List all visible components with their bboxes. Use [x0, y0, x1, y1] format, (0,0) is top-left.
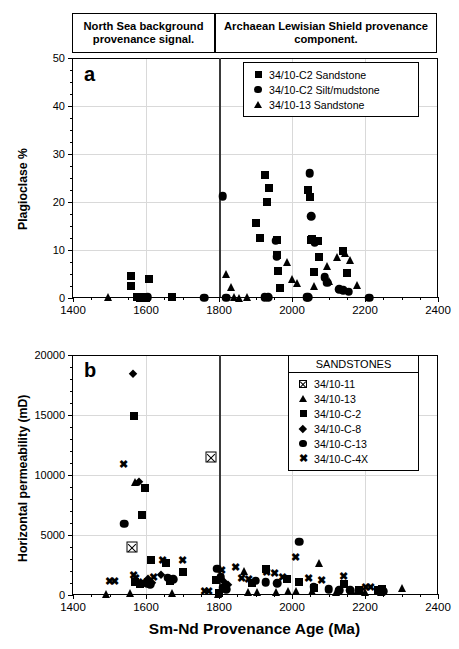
data-point-x: ✖: [217, 565, 226, 576]
data-point-circle: [222, 585, 231, 594]
data-point-circle: [261, 578, 270, 587]
data-point-x: ✖: [278, 572, 287, 583]
circle-marker-icon: [295, 440, 311, 448]
x-tick-label: 1600: [133, 601, 159, 613]
y-tick-minor: [70, 403, 73, 404]
data-point-square: [138, 511, 146, 519]
diamond-marker-icon: [295, 426, 311, 432]
y-tick-minor: [70, 451, 73, 452]
data-point-triangle: [253, 588, 261, 596]
data-point-circle: [324, 585, 333, 594]
y-tick-minor: [70, 511, 73, 512]
data-point-x: ✖: [339, 571, 348, 582]
data-point-x: ✖: [149, 572, 158, 583]
data-point-circle: [295, 537, 304, 546]
box-x-marker-icon: [295, 380, 311, 388]
y-tick-minor: [70, 547, 73, 548]
panel-b: Horizontal permeability (mD) 05000100001…: [0, 0, 459, 649]
x-tick: [73, 594, 74, 599]
y-tick-minor: [70, 487, 73, 488]
legend-label: 34/10-C-4X: [311, 453, 368, 465]
y-tick-minor: [70, 427, 73, 428]
y-tick-minor: [70, 439, 73, 440]
data-point-square: [147, 556, 155, 564]
triangle-marker-icon: [295, 395, 311, 402]
data-point-x: ✖: [244, 574, 253, 585]
y-tick-minor: [70, 583, 73, 584]
gridline-horizontal: [73, 535, 437, 536]
data-point-square: [141, 484, 149, 492]
data-point-circle: [335, 586, 344, 595]
legend-label: 34/10-C-8: [311, 423, 361, 435]
x-tick-minor: [183, 594, 184, 597]
gridline-horizontal: [73, 475, 437, 476]
provenance-divider-line: [219, 355, 221, 594]
data-point-x: ✖: [366, 582, 375, 593]
y-tick-minor: [70, 463, 73, 464]
data-point-triangle: [168, 589, 176, 597]
y-tick-label: 10000: [34, 469, 65, 481]
y-tick-minor: [70, 499, 73, 500]
x-tick-label: 2000: [279, 601, 305, 613]
x-tick-minor: [91, 594, 92, 597]
panel-b-legend: SANDSTONES 34/10-11 34/10-13 34/10-C-2 3…: [288, 355, 419, 471]
x-tick: [438, 594, 439, 599]
x-tick-label: 1400: [60, 601, 86, 613]
data-point-triangle: [292, 587, 300, 595]
x-tick-label: 2400: [425, 601, 451, 613]
x-tick-minor: [329, 594, 330, 597]
y-tick-minor: [70, 391, 73, 392]
data-point-x: ✖: [304, 573, 313, 584]
legend-row: 34/10-C-13: [295, 436, 411, 451]
data-point-x: ✖: [317, 575, 326, 586]
legend-row: ✖ 34/10-C-4X: [295, 451, 411, 466]
square-marker-icon: [295, 410, 311, 417]
y-tick-label: 5000: [41, 529, 65, 541]
data-point-circle: [120, 519, 129, 528]
figure-root: North Sea background provenance signal. …: [0, 0, 459, 649]
data-point-circle: [346, 586, 355, 595]
data-point-x: ✖: [204, 586, 213, 597]
legend-row: 34/10-13: [295, 391, 411, 406]
legend-label: 34/10-11: [311, 378, 355, 390]
y-tick-minor: [70, 523, 73, 524]
legend-label: 34/10-C-13: [311, 438, 367, 450]
plot-frame-right: [437, 355, 438, 595]
y-tick: [68, 475, 73, 476]
data-point-circle: [379, 587, 388, 596]
data-point-triangle: [315, 559, 323, 567]
data-point-x: ✖: [138, 577, 147, 588]
x-tick-minor: [164, 594, 165, 597]
data-point-x: ✖: [178, 555, 187, 566]
data-point-square: [130, 412, 138, 420]
panel-b-letter: b: [84, 360, 96, 380]
x-tick-label: 2200: [352, 601, 378, 613]
x-tick: [146, 594, 147, 599]
x-marker-icon: ✖: [295, 453, 311, 464]
y-tick: [68, 415, 73, 416]
data-point-x: ✖: [291, 551, 300, 562]
data-point-square: [295, 578, 303, 586]
legend-label: 34/10-C-2: [311, 408, 361, 420]
data-point-triangle: [244, 588, 252, 596]
y-tick-minor: [70, 379, 73, 380]
data-point-circle: [169, 575, 178, 584]
y-tick-minor: [70, 367, 73, 368]
x-tick-minor: [237, 594, 238, 597]
y-tick-minor: [70, 559, 73, 560]
data-point-x: ✖: [158, 555, 167, 566]
x-tick-minor: [420, 594, 421, 597]
y-tick: [68, 535, 73, 536]
legend-row: 34/10-11: [295, 376, 411, 391]
data-point-triangle: [272, 588, 280, 596]
x-tick-minor: [402, 594, 403, 597]
y-tick-label: 0: [59, 589, 65, 601]
data-point-box-x: [205, 452, 216, 463]
data-point-x: ✖: [110, 576, 119, 587]
data-point-x: ✖: [119, 459, 128, 470]
data-point-triangle: [126, 589, 134, 597]
y-tick-label: 15000: [34, 409, 65, 421]
panel-b-y-axis-title: Horizontal permeability (mD): [16, 395, 30, 562]
x-tick-label: 1800: [206, 601, 232, 613]
y-tick-label: 20000: [34, 349, 65, 361]
